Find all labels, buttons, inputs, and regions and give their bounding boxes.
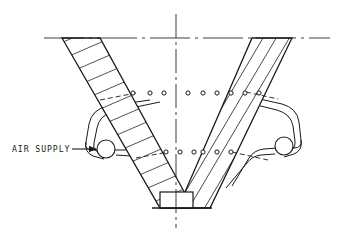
nozzle — [229, 91, 233, 95]
nozzle — [215, 91, 219, 95]
nozzle — [178, 150, 182, 154]
nozzle — [243, 91, 247, 95]
hopper-cross-section-svg: AIR SUPPLY — [0, 0, 350, 238]
nozzle — [164, 150, 168, 154]
nozzle — [201, 91, 205, 95]
nozzle — [192, 150, 196, 154]
nozzle — [201, 150, 205, 154]
nozzle — [162, 91, 166, 95]
nozzle — [131, 91, 135, 95]
nozzle — [229, 150, 233, 154]
technical-drawing-canvas: AIR SUPPLY — [0, 0, 350, 238]
right-air-inlet-circle — [275, 137, 293, 155]
nozzle — [257, 91, 261, 95]
air-supply-callout: AIR SUPPLY — [12, 144, 96, 154]
nozzle — [186, 91, 190, 95]
nozzle — [215, 150, 219, 154]
nozzle — [148, 91, 152, 95]
air-supply-label: AIR SUPPLY — [12, 144, 70, 154]
left-air-inlet-circle — [97, 140, 115, 158]
